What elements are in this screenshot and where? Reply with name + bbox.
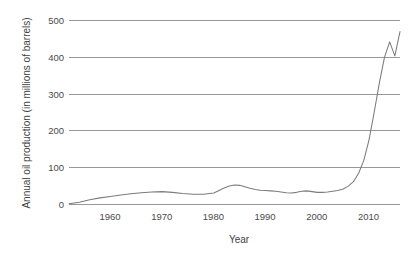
x-tick-label-1990: 1990 [255,211,276,222]
x-tick-labels: 1960 1970 1980 1990 2000 2010 [99,211,379,222]
y-tick-label-300: 300 [48,89,64,100]
x-tick-label-1980: 1980 [203,211,224,222]
oil-production-chart: 500 400 300 200 100 0 1960 1970 1980 199… [0,0,418,257]
chart-canvas: 500 400 300 200 100 0 1960 1970 1980 199… [0,0,418,257]
y-tick-label-500: 500 [48,15,64,26]
y-tick-label-200: 200 [48,125,64,136]
y-tick-label-100: 100 [48,162,64,173]
x-axis-title: Year [229,234,250,245]
x-tick-label-1960: 1960 [99,211,120,222]
y-axis-title: Annual oil production (in millions of ba… [21,17,32,208]
x-tick-label-1970: 1970 [151,211,172,222]
x-tick-label-2010: 2010 [358,211,379,222]
x-tick-label-2000: 2000 [306,211,327,222]
y-tick-label-400: 400 [48,52,64,63]
y-tick-label-0: 0 [59,199,64,210]
y-tick-labels: 500 400 300 200 100 0 [48,15,64,210]
gridlines [69,21,400,205]
